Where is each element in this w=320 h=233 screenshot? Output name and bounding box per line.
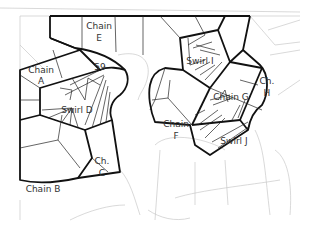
label-chain-b: Chain B: [26, 184, 61, 194]
label-swirl-d: Swirl D: [61, 105, 93, 115]
label-chain-f-1: Chain: [163, 119, 189, 129]
label-swirl-i: Swirl I: [186, 56, 213, 66]
label-chain-e-2: E: [96, 33, 102, 43]
label-ch-c-1: Ch.: [95, 156, 110, 166]
label-swirl-j: Swirl J: [220, 136, 247, 146]
label-chain-f-2: F: [173, 131, 178, 141]
label-chain-e-1: Chain: [86, 21, 112, 31]
label-59: 59: [94, 62, 106, 72]
label-ch-h-1: Ch.: [260, 76, 275, 86]
label-chain-a-1: Chain: [28, 65, 54, 75]
pattern-diagram: Chain E 59 Chain A Swirl D Ch. C Chain B…: [0, 0, 320, 233]
label-ch-c-2: C: [99, 168, 105, 178]
label-ch-h-2: H: [264, 88, 271, 98]
label-chain-a-2: A: [38, 76, 45, 86]
label-chain-g: Chain G: [213, 92, 249, 102]
